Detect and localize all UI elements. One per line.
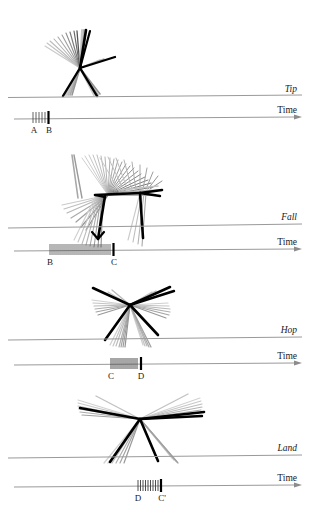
hop-phase-label: Hop xyxy=(280,325,298,335)
tip-event-start-label: A xyxy=(31,125,38,135)
tip-time-axis xyxy=(14,115,302,120)
fall-event-end-label: C xyxy=(111,257,117,267)
panel-fall: Fall Time B C xyxy=(8,155,302,267)
land-event-end-label: C' xyxy=(158,493,166,503)
tip-time-label: Time xyxy=(277,105,297,115)
hop-time-axis xyxy=(14,361,302,366)
fall-time-axis xyxy=(14,247,302,252)
hop-ground-line xyxy=(8,337,302,340)
hop-event-end-label: D xyxy=(138,371,145,381)
panel-hop: Hop Time C D xyxy=(8,287,302,381)
hop-time-label: Time xyxy=(277,351,297,361)
hop-event-ticks xyxy=(111,358,137,369)
land-event-start-label: D xyxy=(135,493,142,503)
fall-ghost-strokes xyxy=(62,155,162,247)
fall-time-label: Time xyxy=(277,237,297,247)
fall-phase-label: Fall xyxy=(280,212,297,222)
motion-sequence-figure: Tip Time A B xyxy=(0,0,310,509)
tip-event-end-label: B xyxy=(46,125,52,135)
panel-tip: Tip Time A B xyxy=(8,30,302,135)
fall-final-pose xyxy=(92,190,162,239)
fall-event-start-label: B xyxy=(47,257,53,267)
panel-land: Land Time D C' xyxy=(8,394,302,503)
tip-event-ticks xyxy=(33,112,45,123)
tip-ground-line xyxy=(8,95,302,98)
land-ghost-strokes xyxy=(78,394,202,463)
land-phase-label: Land xyxy=(276,443,297,453)
hop-event-start-label: C xyxy=(108,371,114,381)
tip-phase-label: Tip xyxy=(285,84,297,94)
land-time-label: Time xyxy=(277,473,297,483)
fall-ground-line xyxy=(8,224,302,228)
